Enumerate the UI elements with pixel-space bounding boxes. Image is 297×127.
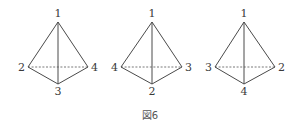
vertex-label-right: 2 xyxy=(278,61,285,74)
tetrahedron-3: 1324 xyxy=(205,7,285,98)
edge xyxy=(28,22,58,67)
vertex-label-left: 3 xyxy=(205,61,212,74)
vertex-label-right: 3 xyxy=(185,61,192,74)
edge xyxy=(28,67,58,84)
edge xyxy=(58,67,88,84)
tetrahedra-figure: 124314321324 図6 xyxy=(0,0,297,127)
vertex-label-apex: 1 xyxy=(241,7,248,20)
edge xyxy=(215,67,244,84)
vertex-label-bottom: 4 xyxy=(241,85,248,98)
vertex-label-left: 2 xyxy=(18,61,25,74)
vertex-label-apex: 1 xyxy=(55,7,62,20)
vertex-label-right: 4 xyxy=(91,61,98,74)
edge xyxy=(152,67,182,84)
vertex-label-apex: 1 xyxy=(149,7,156,20)
vertex-label-left: 4 xyxy=(111,61,118,74)
edge xyxy=(244,67,275,84)
edge xyxy=(121,22,152,67)
tetrahedron-1: 1243 xyxy=(18,7,98,98)
edge xyxy=(215,22,244,67)
edge xyxy=(244,22,275,67)
vertex-label-bottom: 2 xyxy=(149,85,156,98)
vertex-label-bottom: 3 xyxy=(55,85,62,98)
edge xyxy=(58,22,88,67)
edge xyxy=(121,67,152,84)
edge xyxy=(152,22,182,67)
tetrahedron-2: 1432 xyxy=(111,7,192,98)
figure-caption: 図6 xyxy=(142,110,158,121)
